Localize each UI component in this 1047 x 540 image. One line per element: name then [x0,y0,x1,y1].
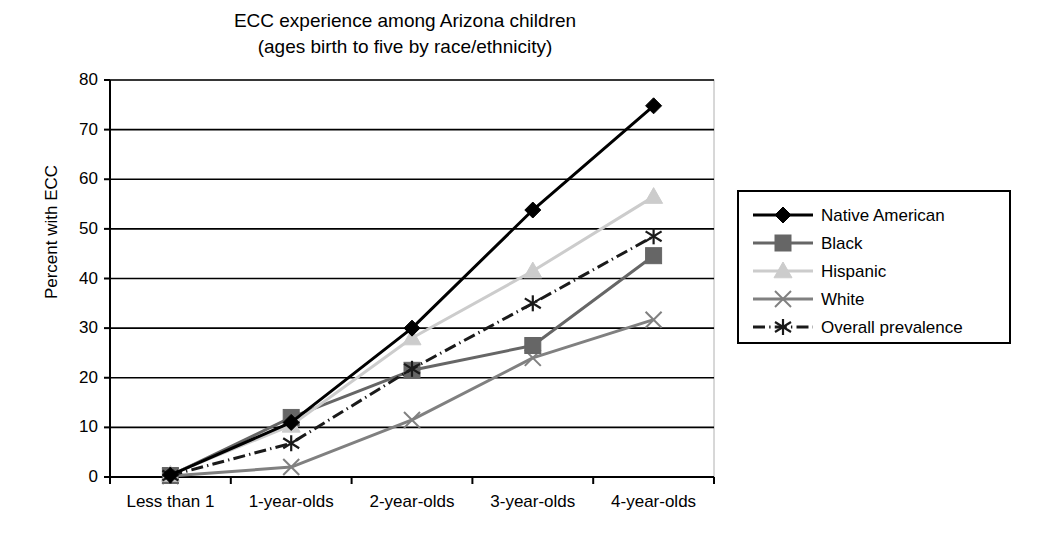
legend: Native AmericanBlackHispanicWhiteOverall… [737,190,1011,344]
legend-label: Overall prevalence [821,318,963,337]
legend-item-hispanic[interactable]: Hispanic [739,256,1013,286]
data-point-marker [775,235,791,251]
legend-item-native-american[interactable]: Native American [739,200,1013,230]
diamond-marker-icon [751,203,815,227]
x-tick-label: 1-year-olds [249,492,334,512]
legend-item-black[interactable]: Black [739,228,1013,258]
triangle-marker-icon [751,259,815,283]
x-tick-label: 3-year-olds [490,492,575,512]
chart-container: ECC experience among Arizona children (a… [0,0,1047,540]
x-tick-label: Less than 1 [126,492,214,512]
legend-label: Black [821,234,863,253]
legend-item-white[interactable]: White [739,284,1013,314]
x-tick-label: 2-year-olds [369,492,454,512]
legend-item-overall-prevalence[interactable]: Overall prevalence [739,312,1013,342]
legend-label: Native American [821,206,945,225]
asterisk-marker-icon [751,315,815,339]
data-point-marker [525,337,541,353]
legend-label: White [821,290,864,309]
legend-label: Hispanic [821,262,886,281]
x-tick-label: 4-year-olds [611,492,696,512]
square-marker-icon [751,231,815,255]
x-marker-icon [751,287,815,311]
x-axis-tick-labels: Less than 11-year-olds2-year-olds3-year-… [110,492,714,522]
data-point-marker [775,207,791,223]
data-point-marker [646,248,662,264]
